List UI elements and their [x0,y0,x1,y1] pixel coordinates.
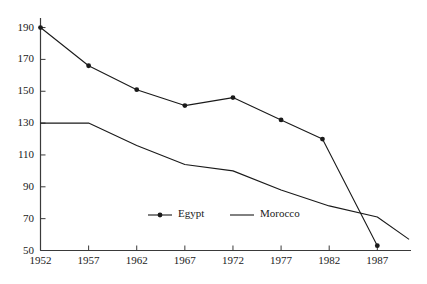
y-tick-label: 90 [0,180,34,192]
y-tick-label: 190 [0,21,34,33]
x-tick-label: 1982 [309,254,349,266]
x-tick-label: 1972 [213,254,253,266]
y-tick-label: 150 [0,84,34,96]
chart-plot-area [0,0,427,284]
x-axis-ticks [41,246,378,251]
y-tick-label: 110 [0,148,34,160]
x-tick-label: 1977 [261,254,301,266]
x-tick-label: 1987 [357,254,397,266]
x-tick-label: 1952 [21,254,61,266]
data-point-marker [38,25,43,30]
data-point-marker [375,243,380,248]
data-point-marker [86,63,91,68]
data-series-group [41,28,410,246]
data-point-marker [279,118,284,123]
data-point-marker [320,137,325,142]
data-point-marker [134,87,139,92]
x-tick-label: 1957 [69,254,109,266]
data-marker-group [38,25,380,248]
legend-label-egypt: Egypt [178,207,204,219]
line-chart: 190170150130110907050 195219571962196719… [0,0,427,284]
y-tick-label: 130 [0,116,34,128]
series-line-morocco [41,123,410,239]
x-tick-label: 1962 [117,254,157,266]
series-line-egypt [41,28,378,246]
y-tick-label: 170 [0,52,34,64]
data-point-marker [231,95,236,100]
legend-marker-egypt [158,213,163,218]
legend-label-morocco: Morocco [260,207,300,219]
x-tick-label: 1967 [165,254,205,266]
y-axis-ticks [41,28,46,251]
data-point-marker [182,103,187,108]
y-tick-label: 70 [0,212,34,224]
